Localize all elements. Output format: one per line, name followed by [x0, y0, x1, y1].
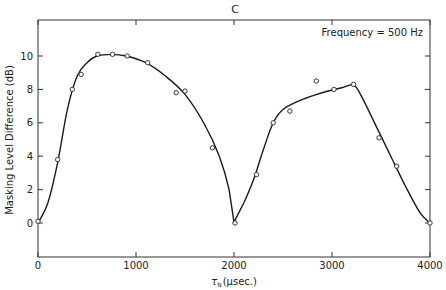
chart-title: C	[231, 3, 239, 16]
y-tick-label: 10	[20, 51, 33, 62]
data-point-marker	[96, 52, 100, 56]
x-tick-label: 2000	[221, 260, 246, 271]
y-tick-label: 2	[27, 184, 33, 195]
x-axis-title-unit: (μsec.)	[223, 276, 257, 287]
y-axis-title: Masking Level Difference (dB)	[4, 65, 15, 215]
y-axis: 0246810	[20, 51, 430, 229]
x-axis-title: τN(μsec.)	[211, 276, 257, 288]
fitted-curve	[38, 54, 430, 223]
data-point-marker	[428, 221, 432, 225]
x-axis-title-subscript: N	[217, 281, 222, 288]
data-point-marker	[332, 87, 336, 91]
data-point-marker	[55, 157, 59, 161]
data-point-marker	[288, 109, 292, 113]
x-tick-label: 1000	[123, 260, 148, 271]
data-point-marker	[314, 79, 318, 83]
data-point-marker	[125, 54, 129, 58]
data-point-marker	[36, 219, 40, 223]
data-point-marker	[271, 121, 275, 125]
y-tick-label: 0	[27, 218, 33, 229]
mld-chart: C 01000200030004000 0246810 Frequency = …	[0, 0, 446, 290]
y-tick-label: 6	[27, 117, 33, 128]
data-point-marker	[254, 172, 258, 176]
data-point-marker	[394, 164, 398, 168]
data-point-marker	[377, 136, 381, 140]
x-axis: 01000200030004000	[35, 20, 443, 271]
data-point-marker	[183, 89, 187, 93]
x-tick-label: 3000	[319, 260, 344, 271]
data-point-marker	[233, 221, 237, 225]
y-tick-label: 8	[27, 84, 33, 95]
y-tick-label: 4	[27, 151, 33, 162]
data-point-marker	[79, 72, 83, 76]
data-point-marker	[146, 60, 150, 64]
data-point-marker	[70, 87, 74, 91]
x-tick-label: 4000	[417, 260, 442, 271]
x-tick-label: 0	[35, 260, 41, 271]
frequency-annotation: Frequency = 500 Hz	[322, 27, 423, 38]
data-point-marker	[351, 82, 355, 86]
data-points	[36, 52, 432, 225]
data-point-marker	[210, 146, 214, 150]
data-point-marker	[110, 52, 114, 56]
data-point-marker	[174, 91, 178, 95]
